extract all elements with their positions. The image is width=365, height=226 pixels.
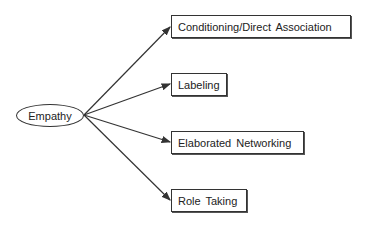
elaborated-networking-node: Elaborated Networking <box>171 131 304 154</box>
role-taking-label: Role Taking <box>178 195 237 207</box>
role-taking-node: Role Taking <box>171 189 247 212</box>
conditioning-label: Conditioning/Direct Association <box>178 21 332 33</box>
elaborated-networking-label: Elaborated Networking <box>178 137 291 149</box>
arrow-to-labeling <box>84 84 170 115</box>
conditioning-node: Conditioning/Direct Association <box>171 15 351 38</box>
empathy-node: Empathy <box>16 104 84 127</box>
arrow-to-conditioning <box>84 27 170 115</box>
arrow-to-role-taking <box>84 115 170 200</box>
labeling-node: Labeling <box>171 73 227 96</box>
empathy-label: Empathy <box>28 110 71 122</box>
labeling-label: Labeling <box>178 79 220 91</box>
